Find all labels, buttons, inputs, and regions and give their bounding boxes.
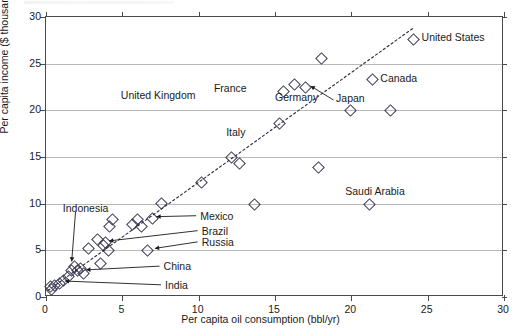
chart-canvas: Per capita income ($ thousands) Per capi…	[0, 0, 521, 334]
x-tick-label: 0	[30, 304, 60, 314]
x-tick	[351, 295, 352, 301]
data-point-marker	[366, 73, 379, 86]
annotation-label: France	[214, 83, 247, 94]
gridline-y	[46, 157, 502, 158]
x-tick-label: 5	[106, 304, 136, 314]
data-point-marker	[155, 197, 168, 210]
y-tick-right	[502, 17, 507, 18]
x-tick-label: 25	[412, 304, 442, 314]
x-tick-top	[122, 12, 123, 17]
x-axis-title: Per capita oil consumption (bbl/yr)	[0, 313, 521, 325]
x-tick-label: 30	[488, 304, 518, 314]
annotation-label: Indonesia	[63, 203, 109, 214]
data-point-marker	[273, 117, 286, 130]
annotation-label: Italy	[226, 127, 245, 138]
x-tick	[428, 295, 429, 301]
data-point-marker	[94, 257, 107, 270]
plot-area: United KingdomFranceGermanyItalyJapanCan…	[45, 16, 503, 296]
data-point-marker	[344, 104, 357, 117]
annotation-label: Canada	[380, 73, 417, 84]
data-point-marker	[195, 176, 208, 189]
data-point-marker	[248, 198, 261, 211]
y-axis-title: Per capita income ($ thousands)	[0, 0, 10, 168]
annotation-label: China	[164, 261, 191, 272]
y-tick-label: 15	[1, 151, 41, 161]
annotation-label: Germany	[275, 92, 318, 103]
x-tick	[46, 295, 47, 301]
x-tick	[504, 295, 505, 301]
y-tick-label: 0	[1, 291, 41, 301]
y-tick-right	[502, 64, 507, 65]
annotation-label: Saudi Arabia	[345, 186, 405, 197]
annotation-label: United Kingdom	[121, 90, 196, 101]
x-tick	[199, 295, 200, 301]
x-tick	[122, 295, 123, 301]
data-point-marker	[384, 104, 397, 117]
data-point-marker	[288, 78, 301, 91]
x-tick-top	[428, 12, 429, 17]
data-point-marker	[141, 244, 154, 257]
y-tick-label: 30	[1, 11, 41, 21]
annotation-label: Brazil	[202, 226, 228, 237]
gridline-y	[46, 204, 502, 205]
x-tick-top	[199, 12, 200, 17]
y-tick-label: 5	[1, 244, 41, 254]
data-point-marker	[82, 242, 95, 255]
x-tick-top	[275, 12, 276, 17]
x-tick	[275, 295, 276, 301]
annotation-label: United States	[422, 32, 485, 43]
x-tick-label: 15	[259, 304, 289, 314]
y-tick-label: 20	[1, 104, 41, 114]
x-tick-label: 20	[335, 304, 365, 314]
gridline-y	[46, 110, 502, 111]
top-crop-artifact	[24, 1, 174, 4]
y-tick-label: 10	[1, 198, 41, 208]
y-tick-right	[502, 157, 507, 158]
x-tick-label: 10	[183, 304, 213, 314]
annotation-label: Japan	[336, 93, 365, 104]
data-point-marker	[315, 52, 328, 65]
data-point-marker	[312, 161, 325, 174]
data-point-marker	[407, 33, 420, 46]
y-tick-right	[502, 204, 507, 205]
y-tick-label: 25	[1, 58, 41, 68]
x-tick-top	[46, 12, 47, 17]
gridline-y	[46, 64, 502, 65]
annotation-label: Russia	[202, 237, 234, 248]
x-tick-top	[351, 12, 352, 17]
y-tick-right	[502, 110, 507, 111]
annotation-label: Mexico	[200, 211, 233, 222]
y-tick-right	[502, 250, 507, 251]
annotation-label: India	[165, 280, 188, 291]
x-tick-top	[504, 12, 505, 17]
data-point-marker	[363, 198, 376, 211]
data-point-marker	[146, 212, 159, 225]
